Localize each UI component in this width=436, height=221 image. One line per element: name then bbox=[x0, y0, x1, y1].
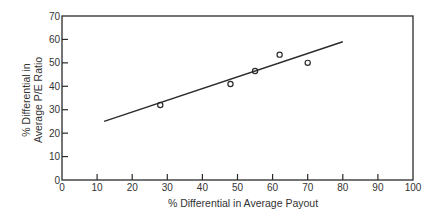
y-tick-label: 20 bbox=[49, 128, 61, 139]
x-tick-label: 10 bbox=[92, 182, 104, 193]
x-tick-label: 20 bbox=[127, 182, 139, 193]
x-tick-label: 100 bbox=[405, 182, 422, 193]
y-axis-label-line-2: Average P/E Ratio bbox=[32, 57, 44, 143]
x-axis-ticks: 0102030405060708090100 bbox=[59, 174, 422, 193]
data-point-circle bbox=[277, 52, 282, 57]
data-point-circle bbox=[228, 81, 233, 86]
x-tick-label: 60 bbox=[267, 182, 279, 193]
y-axis-ticks: 010203040506070 bbox=[49, 11, 68, 186]
x-axis-label: % Differential in Average Payout bbox=[168, 197, 318, 209]
y-tick-label: 0 bbox=[54, 175, 60, 186]
y-tick-label: 60 bbox=[49, 34, 61, 45]
x-tick-label: 90 bbox=[372, 182, 384, 193]
fitted-trend-line bbox=[104, 42, 343, 122]
scatter-chart: 0102030405060708090100 010203040506070 %… bbox=[0, 0, 436, 221]
x-tick-label: 50 bbox=[232, 182, 244, 193]
x-tick-label: 0 bbox=[59, 182, 65, 193]
y-tick-label: 40 bbox=[49, 81, 61, 92]
trend-line bbox=[104, 42, 343, 122]
plot-frame bbox=[62, 16, 413, 180]
plot-border bbox=[62, 16, 413, 180]
y-axis-label-line-1: % Differential in bbox=[20, 63, 32, 137]
y-tick-label: 70 bbox=[49, 11, 61, 22]
data-point-circle bbox=[305, 60, 310, 65]
x-tick-label: 30 bbox=[162, 182, 174, 193]
x-tick-label: 40 bbox=[197, 182, 209, 193]
y-tick-label: 10 bbox=[49, 151, 61, 162]
y-axis-label: % Differential in Average P/E Ratio bbox=[20, 57, 44, 143]
x-tick-label: 70 bbox=[302, 182, 314, 193]
y-tick-label: 50 bbox=[49, 57, 61, 68]
x-tick-label: 80 bbox=[337, 182, 349, 193]
y-tick-label: 30 bbox=[49, 104, 61, 115]
